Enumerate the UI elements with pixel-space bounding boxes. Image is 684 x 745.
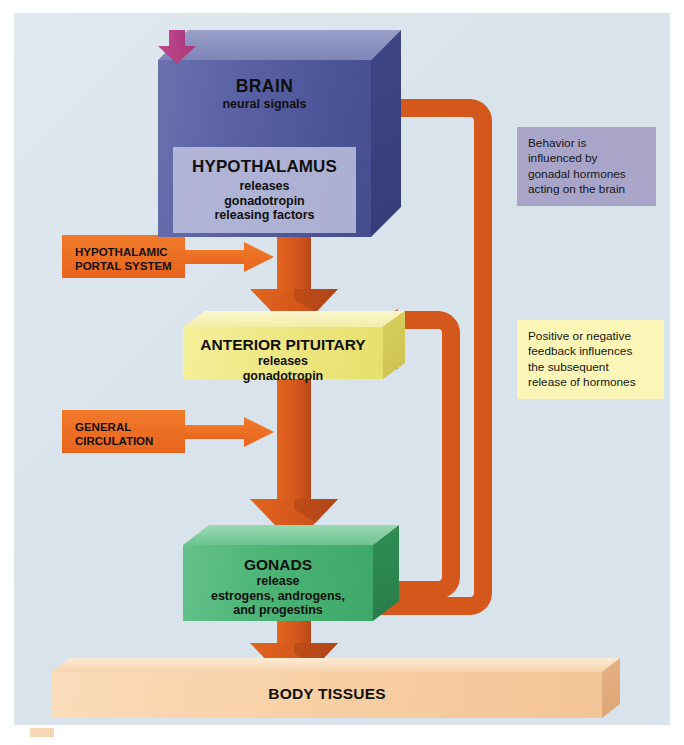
callout-behavior-line-3: gonadal hormones [528, 167, 646, 182]
gonads-description: release estrogens, androgens, and proges… [183, 574, 373, 618]
gonads-box-top-face [183, 525, 399, 545]
brain-box-top-face [158, 30, 401, 60]
general-circulation-label: GENERAL CIRCULATION [62, 410, 185, 453]
hypothalamus-title: HYPOTHALAMUS [158, 157, 371, 177]
bottom-corner-mark [30, 728, 54, 737]
brain-box-side-face [371, 30, 401, 237]
callout-behavior: Behavior is influenced by gonadal hormon… [517, 127, 656, 206]
hypothalamic-portal-system-label: HYPOTHALAMIC PORTAL SYSTEM [62, 235, 185, 278]
tissues-box-top-face [52, 658, 620, 672]
callout-feedback-line-1: Positive or negative [528, 329, 654, 344]
callout-behavior-line-2: influenced by [528, 151, 646, 166]
brain-title: BRAIN [158, 76, 371, 96]
pituitary-title: ANTERIOR PITUITARY [183, 336, 383, 354]
hypothalamic-portal-system-text: HYPOTHALAMIC PORTAL SYSTEM [75, 245, 179, 274]
neural-arrow-shaft [169, 30, 185, 48]
pituitary-box-top-face [183, 311, 405, 327]
callout-feedback-line-2: feedback influences [528, 344, 654, 359]
portal-arrow-shaft [185, 250, 247, 264]
diagram-canvas: BRAIN neural signals HYPOTHALAMUS releas… [14, 13, 670, 725]
general-arrow-head [244, 417, 274, 447]
gonads-title: GONADS [183, 556, 373, 574]
flow-arrow-shaft [277, 377, 311, 509]
pituitary-description: releases gonadotropin [183, 354, 383, 383]
gonads-box: GONADS release estrogens, androgens, and… [183, 525, 399, 621]
general-circulation-text: GENERAL CIRCULATION [75, 420, 179, 449]
general-circulation-arrow-icon [185, 417, 274, 447]
body-tissues-title: BODY TISSUES [52, 685, 602, 703]
anterior-pituitary-box: ANTERIOR PITUITARY releases gonadotropin [183, 311, 405, 379]
callout-behavior-line-4: acting on the brain [528, 182, 646, 197]
flow-arrow-shaft [277, 235, 311, 297]
portal-arrow-head [244, 242, 274, 272]
portal-system-arrow-icon [185, 242, 274, 272]
brain-box: BRAIN neural signals HYPOTHALAMUS releas… [158, 30, 401, 237]
callout-behavior-line-1: Behavior is [528, 136, 646, 151]
callout-feedback-line-4: release of hormones [528, 375, 654, 390]
flow-arrow-pituitary-to-gonads [250, 377, 338, 545]
hypothalamus-description: releases gonadotropin releasing factors [158, 179, 371, 223]
callout-feedback-line-3: the subsequent [528, 360, 654, 375]
brain-subtitle: neural signals [158, 97, 371, 112]
body-tissues-box: BODY TISSUES [52, 658, 620, 718]
callout-feedback: Positive or negative feedback influences… [517, 320, 664, 399]
general-arrow-shaft [185, 425, 247, 439]
